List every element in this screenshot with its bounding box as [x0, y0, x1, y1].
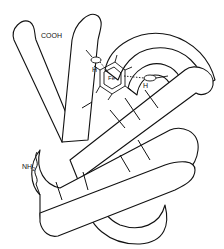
iron-label: Fe: [108, 75, 116, 81]
histidine-distal-label: H: [143, 82, 148, 89]
distal-histidine-ring: [144, 75, 156, 81]
histidine-proximal-label: H: [92, 66, 97, 73]
protein-ribbon-diagram: COOH H Fe H NH2: [0, 0, 224, 249]
cooh-label: COOH: [41, 32, 62, 39]
helix-middle-arm: [62, 14, 101, 142]
proximal-histidine-ring: [91, 57, 101, 63]
